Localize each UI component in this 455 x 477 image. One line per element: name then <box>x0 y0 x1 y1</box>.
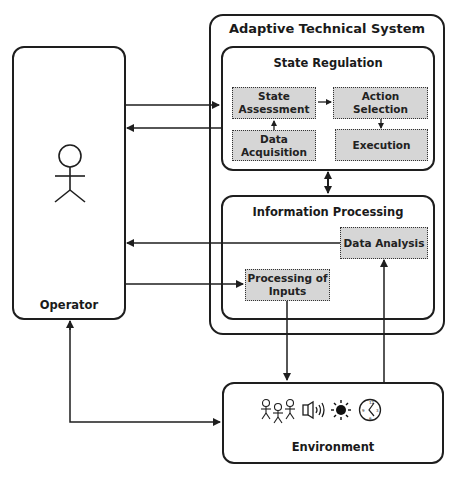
data-acquisition-block: Data Acquisition <box>232 130 316 161</box>
environment-icons: 12 9 3 6 <box>224 398 442 428</box>
execution-block: Execution <box>335 129 428 161</box>
environment-box: 12 9 3 6 Environment <box>222 382 444 464</box>
svg-text:3: 3 <box>376 408 379 413</box>
speaker-icon <box>303 402 324 418</box>
clock-icon: 12 9 3 6 <box>360 400 381 422</box>
state-regulation-title: State Regulation <box>223 56 433 70</box>
information-processing-title: Information Processing <box>223 205 433 219</box>
svg-text:9: 9 <box>362 408 365 413</box>
operator-box: Operator <box>12 46 126 320</box>
state-assessment-block: State Assessment <box>232 87 316 119</box>
operator-label: Operator <box>14 298 124 312</box>
data-analysis-block: Data Analysis <box>340 227 428 259</box>
svg-text:12: 12 <box>369 400 375 405</box>
processing-of-inputs-block: Processing of Inputs <box>245 269 330 301</box>
system-title: Adaptive Technical System <box>211 21 443 36</box>
action-selection-block: Action Selection <box>333 87 428 119</box>
people-icon <box>261 400 295 424</box>
environment-label: Environment <box>224 440 442 454</box>
sun-icon <box>331 400 351 420</box>
stick-figure-icon <box>50 144 90 208</box>
